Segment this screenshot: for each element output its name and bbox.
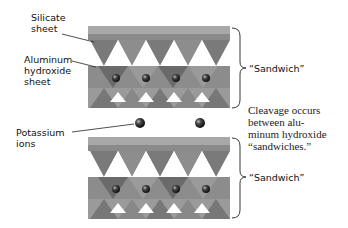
aluminum-leader-line <box>72 61 96 67</box>
cleavage-note: Cleavage occurs between alu- minum hydro… <box>248 104 327 152</box>
potassium-leader-line <box>72 124 134 132</box>
bottom-sandwich-structure <box>88 137 230 219</box>
top-sandwich-structure <box>88 26 230 108</box>
aluminum-hydroxide-sheet-label: Aluminum hydroxide sheet <box>24 54 72 87</box>
potassium-ion <box>195 118 205 128</box>
top-brace <box>232 28 246 108</box>
potassium-ions-label: Potassium ions <box>16 127 65 149</box>
sandwich-top-label: “Sandwich” <box>249 63 304 74</box>
silicate-sheet-label: Silicate sheet <box>31 12 66 34</box>
bottom-brace <box>232 138 246 218</box>
sandwich-bottom-label: “Sandwich” <box>249 172 304 183</box>
potassium-ion <box>135 118 145 128</box>
